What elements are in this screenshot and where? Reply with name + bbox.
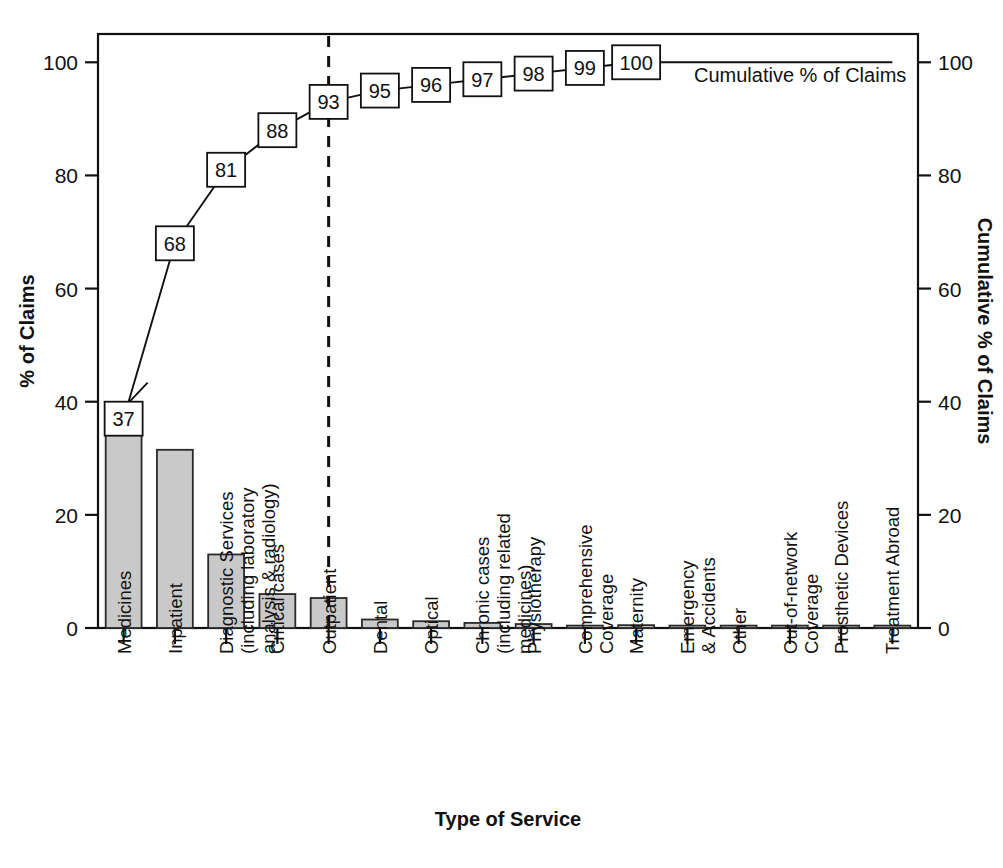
cumulative-marker-label-6: 96 (420, 74, 442, 96)
y-tick-label-80: 80 (55, 164, 78, 187)
x-axis-title: Type of Service (435, 808, 581, 830)
y-tick-label-40: 40 (55, 391, 78, 414)
x-category-label-9-line-1: Coverage (596, 574, 617, 654)
cumulative-marker-label-5: 95 (369, 80, 391, 102)
cumulative-markers-group: 37688188939596979899100 (105, 45, 661, 435)
y-axis-left-title: % of Claims (16, 274, 38, 387)
chart-canvas: 37688188939596979899100 020406080100 020… (0, 0, 1003, 868)
y2-tick-label-40: 40 (938, 391, 961, 414)
pareto-chart: 37688188939596979899100 020406080100 020… (0, 0, 1003, 868)
cumulative-marker-label-7: 97 (471, 69, 493, 91)
x-category-label-15-line-0: Treatment Abroad (882, 507, 903, 654)
cumulative-marker-label-0: 37 (113, 408, 135, 430)
x-category-label-11-line-0: Emergency (677, 560, 698, 654)
y2-tick-label-0: 0 (938, 617, 950, 640)
y-tick-label-20: 20 (55, 504, 78, 527)
x-category-label-7-line-1: (including related (493, 513, 514, 654)
x-category-label-5-line-0: Dental (370, 601, 391, 654)
x-category-label-13-line-1: Coverage (801, 574, 822, 654)
y-tick-label-60: 60 (55, 278, 78, 301)
cumulative-line (124, 62, 893, 418)
cumulative-marker-label-4: 93 (318, 91, 340, 113)
x-category-label-2-line-1: (including laboratory (237, 487, 258, 654)
x-category-label-12-line-0: Other (729, 608, 750, 654)
x-category-label-2-line-0: Diagnostic Services (216, 492, 237, 654)
x-category-label-14-line-0: Prosthetic Devices (831, 501, 852, 654)
y2-tick-label-20: 20 (938, 504, 961, 527)
cumulative-marker-label-2: 81 (215, 159, 237, 181)
cumulative-marker-label-9: 99 (574, 57, 596, 79)
x-category-label-13-line-0: Out-of-network (780, 531, 801, 654)
y-axis-right-title: Cumulative % of Claims (974, 218, 996, 445)
x-category-label-9-line-0: Comprehensive (575, 524, 596, 654)
legend-cumulative-label: Cumulative % of Claims (694, 64, 906, 86)
x-category-label-3-line-0: Critical cases (267, 544, 288, 654)
y-tick-label-100: 100 (43, 51, 78, 74)
cumulative-marker-label-1: 68 (164, 233, 186, 255)
x-category-label-1-line-0: Inpatient (165, 583, 186, 654)
x-axis-category-labels: MedicinesInpatientDiagnostic Services(in… (114, 483, 904, 654)
cumulative-marker-label-8: 98 (523, 63, 545, 85)
y-tick-label-0: 0 (66, 617, 78, 640)
x-category-label-11-line-1: & Accidents (698, 557, 719, 654)
x-category-label-4-line-0: Outpatient (319, 569, 340, 654)
y2-tick-label-100: 100 (938, 51, 973, 74)
x-category-label-7-line-0: Chronic cases (472, 537, 493, 654)
x-category-label-0-line-0: Medicines (114, 571, 135, 654)
y-axis-left-ticks: 020406080100 (43, 51, 98, 640)
y2-tick-label-60: 60 (938, 278, 961, 301)
x-category-label-10-line-0: Maternity (626, 577, 647, 654)
y-axis-right-ticks: 020406080100 (918, 51, 973, 640)
y2-tick-label-80: 80 (938, 164, 961, 187)
x-category-label-6-line-0: Optical (421, 596, 442, 654)
x-category-label-8-line-0: Physiotherapy (524, 536, 545, 654)
cumulative-marker-label-3: 88 (266, 120, 288, 142)
cumulative-marker-label-10: 100 (619, 52, 652, 74)
cumulative-line-group (124, 62, 893, 418)
